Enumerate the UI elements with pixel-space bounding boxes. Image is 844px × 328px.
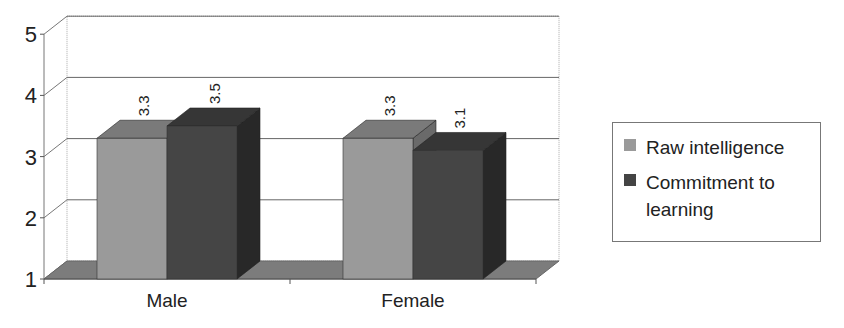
data-label: 3.5: [206, 83, 223, 104]
y-tick-label: 1: [25, 267, 37, 292]
bar-raw-intelligence: [343, 138, 413, 279]
data-label: 3.3: [136, 95, 153, 116]
gridline-diagonal: [44, 77, 67, 95]
data-label: 3.1: [452, 108, 469, 129]
chart-legend: Raw intelligence Commitment to learning: [612, 122, 821, 242]
legend-label: Commitment to learning: [646, 169, 816, 223]
y-tick-label: 4: [25, 83, 37, 108]
bar-side: [237, 108, 260, 279]
gridline-diagonal: [44, 200, 67, 218]
bar-raw-intelligence: [97, 138, 167, 279]
gridline-diagonal: [44, 139, 67, 157]
data-label: 3.3: [382, 95, 399, 116]
bar-side: [483, 132, 506, 279]
y-tick-label: 3: [25, 145, 37, 170]
bar-commitment-to-learning: [167, 126, 237, 279]
legend-swatch-commitment-to-learning: [624, 174, 636, 186]
legend-label: Raw intelligence: [646, 134, 816, 161]
x-category-label: Male: [146, 290, 187, 311]
legend-item-commitment-to-learning: Commitment to learning: [624, 169, 816, 223]
y-tick-label: 5: [25, 22, 37, 47]
y-tick-label: 2: [25, 206, 37, 231]
bar-commitment-to-learning: [413, 150, 483, 279]
gridline-diagonal: [44, 16, 67, 34]
legend-item-raw-intelligence: Raw intelligence: [624, 134, 816, 161]
x-category-label: Female: [381, 290, 444, 311]
legend-swatch-raw-intelligence: [624, 139, 636, 151]
